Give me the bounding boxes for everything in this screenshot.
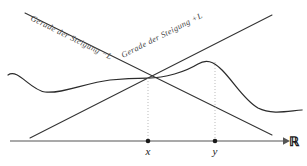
lipschitz-cone-figure: Gerade der Steigung −L Gerade der Steigu… xyxy=(0,0,307,166)
point-label-x: x xyxy=(145,145,151,157)
point-label-y: y xyxy=(212,145,218,157)
label-slope-plus-L: Gerade der Steigung +L xyxy=(120,11,204,60)
point-marker-x xyxy=(146,139,151,144)
label-slope-minus-L: Gerade der Steigung −L xyxy=(29,14,114,62)
axis-label-real-numbers: ℝ xyxy=(289,135,300,149)
figure-container: Gerade der Steigung −L Gerade der Steigu… xyxy=(0,0,307,166)
function-curve xyxy=(8,61,302,112)
point-marker-y xyxy=(213,139,218,144)
